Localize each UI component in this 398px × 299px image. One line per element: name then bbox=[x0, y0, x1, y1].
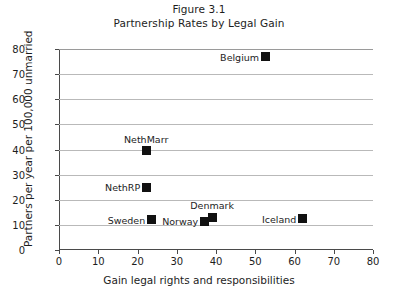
gridline-y-80 bbox=[59, 49, 373, 50]
x-tick-label-10: 10 bbox=[83, 256, 113, 267]
x-tick-label-0: 0 bbox=[44, 256, 74, 267]
y-tick-label-80: 80 bbox=[0, 44, 25, 55]
x-axis-title: Gain legal rights and responsibilities bbox=[0, 274, 398, 286]
x-tick-mark-60 bbox=[295, 250, 296, 254]
x-tick-label-30: 30 bbox=[162, 256, 192, 267]
x-tick-label-40: 40 bbox=[201, 256, 231, 267]
data-point-nethrp bbox=[142, 183, 151, 192]
data-point-label-sweden: Sweden bbox=[108, 214, 146, 225]
y-tick-label-50: 50 bbox=[0, 119, 25, 130]
data-point-iceland bbox=[298, 214, 307, 223]
data-point-label-iceland: Iceland bbox=[262, 213, 296, 224]
x-tick-label-60: 60 bbox=[280, 256, 310, 267]
x-tick-label-20: 20 bbox=[123, 256, 153, 267]
x-tick-mark-50 bbox=[255, 250, 256, 254]
data-point-belgium bbox=[261, 52, 270, 61]
y-tick-label-0: 0 bbox=[0, 245, 25, 256]
data-point-nethmarr bbox=[142, 146, 151, 155]
plot-area: BelgiumNethMarrNethRPSwedenNorwayDenmark… bbox=[59, 49, 373, 250]
figure-3-1-chart: Figure 3.1 Partnership Rates by Legal Ga… bbox=[0, 0, 398, 299]
x-tick-mark-10 bbox=[98, 250, 99, 254]
x-tick-mark-80 bbox=[373, 250, 374, 254]
y-tick-label-40: 40 bbox=[0, 144, 25, 155]
y-tick-label-70: 70 bbox=[0, 69, 25, 80]
gridline-y-30 bbox=[59, 175, 373, 176]
y-tick-label-10: 10 bbox=[0, 219, 25, 230]
data-point-denmark bbox=[208, 213, 217, 222]
y-axis-title: Partners per year per 100,000 unmarried bbox=[22, 30, 34, 247]
y-tick-label-20: 20 bbox=[0, 194, 25, 205]
data-point-label-nethmarr: NethMarr bbox=[124, 134, 168, 145]
gridline-y-60 bbox=[59, 99, 373, 100]
gridline-y-50 bbox=[59, 124, 373, 125]
y-tick-label-30: 30 bbox=[0, 169, 25, 180]
y-tick-label-60: 60 bbox=[0, 94, 25, 105]
x-tick-mark-20 bbox=[138, 250, 139, 254]
gridline-y-70 bbox=[59, 74, 373, 75]
x-tick-mark-30 bbox=[177, 250, 178, 254]
x-tick-mark-0 bbox=[59, 250, 60, 254]
x-tick-label-50: 50 bbox=[240, 256, 270, 267]
gridline-y-10 bbox=[59, 225, 373, 226]
x-tick-label-70: 70 bbox=[319, 256, 349, 267]
figure-title: Figure 3.1 bbox=[0, 3, 398, 15]
x-tick-label-80: 80 bbox=[358, 256, 388, 267]
figure-subtitle: Partnership Rates by Legal Gain bbox=[0, 17, 398, 29]
x-tick-mark-70 bbox=[334, 250, 335, 254]
data-point-label-belgium: Belgium bbox=[220, 51, 259, 62]
data-point-sweden bbox=[147, 215, 156, 224]
data-point-label-norway: Norway bbox=[162, 216, 198, 227]
x-tick-mark-40 bbox=[216, 250, 217, 254]
data-point-label-denmark: Denmark bbox=[190, 200, 234, 211]
gridline-y-40 bbox=[59, 150, 373, 151]
data-point-label-nethrp: NethRP bbox=[105, 182, 140, 193]
